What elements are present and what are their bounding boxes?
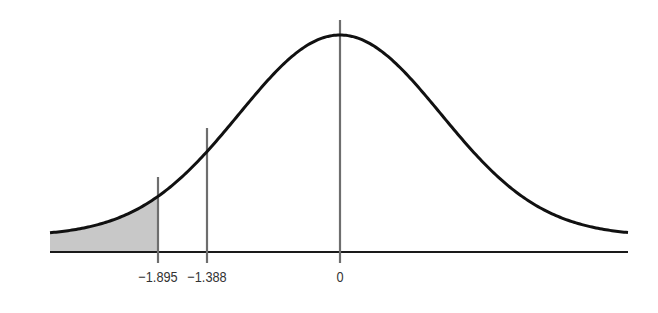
normal-curve-diagram: −1.895 −1.388 0 bbox=[0, 0, 658, 313]
tick-label-zero: 0 bbox=[336, 268, 343, 285]
curve-svg bbox=[0, 0, 658, 313]
tick-label-neg-1.895: −1.895 bbox=[138, 268, 177, 285]
tick-label-neg-1.388: −1.388 bbox=[187, 268, 226, 285]
